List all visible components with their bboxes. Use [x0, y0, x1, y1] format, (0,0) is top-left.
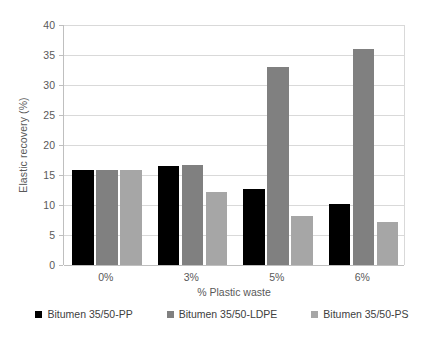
bar[interactable]	[182, 165, 204, 265]
bar[interactable]	[377, 222, 399, 265]
legend-label: Bitumen 35/50-PS	[323, 308, 408, 320]
bar-group	[329, 25, 399, 265]
bar[interactable]	[72, 170, 94, 265]
x-axis-title: % Plastic waste	[63, 286, 405, 298]
bar-group	[72, 25, 142, 265]
y-axis-tick-label: 5	[31, 229, 55, 241]
legend-swatch-icon	[167, 311, 174, 318]
x-axis-category-label: 0%	[98, 271, 113, 283]
bar[interactable]	[353, 49, 375, 265]
bar-group	[243, 25, 313, 265]
bar[interactable]	[120, 170, 142, 265]
legend-swatch-icon	[35, 311, 42, 318]
plot-area	[63, 25, 405, 265]
y-axis-tick-label: 35	[31, 49, 55, 61]
bar[interactable]	[206, 192, 228, 265]
bar[interactable]	[96, 170, 118, 265]
legend-label: Bitumen 35/50-PP	[47, 308, 132, 320]
bar[interactable]	[329, 204, 351, 265]
y-axis-tick-label: 10	[31, 199, 55, 211]
bar[interactable]	[243, 189, 265, 265]
bar[interactable]	[158, 166, 180, 265]
legend-item[interactable]: Bitumen 35/50-LDPE	[167, 308, 278, 320]
x-axis-category-label: 5%	[269, 271, 284, 283]
elastic-recovery-bar-chart: Elastic recovery (%) 0510152025303540 0%…	[0, 0, 444, 337]
x-axis-category-label: 6%	[355, 271, 370, 283]
legend-label: Bitumen 35/50-LDPE	[179, 308, 278, 320]
y-axis-tick-label: 40	[31, 19, 55, 31]
chart-legend: Bitumen 35/50-PPBitumen 35/50-LDPEBitume…	[0, 308, 444, 320]
y-axis-tick-label: 25	[31, 109, 55, 121]
y-axis-tick-label: 15	[31, 169, 55, 181]
y-axis-tick-label: 30	[31, 79, 55, 91]
x-axis-category-label: 3%	[184, 271, 199, 283]
bar[interactable]	[291, 216, 313, 265]
y-axis-tick-mark	[59, 265, 63, 266]
bar-group	[158, 25, 228, 265]
gridline	[64, 265, 404, 266]
legend-item[interactable]: Bitumen 35/50-PS	[311, 308, 408, 320]
legend-item[interactable]: Bitumen 35/50-PP	[35, 308, 132, 320]
bar[interactable]	[267, 67, 289, 265]
y-axis-tick-label: 20	[31, 139, 55, 151]
y-axis-tick-label: 0	[31, 259, 55, 271]
legend-swatch-icon	[311, 311, 318, 318]
y-axis-title: Elastic recovery (%)	[17, 35, 29, 255]
